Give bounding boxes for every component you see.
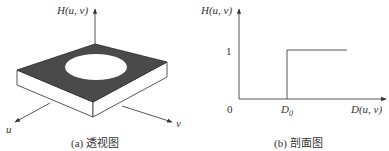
cutoff-label-sub: 0 — [289, 109, 293, 118]
origin-label: 0 — [227, 104, 233, 115]
passband-hole — [65, 54, 127, 80]
caption-b: (b) 剖面图 — [274, 138, 323, 149]
cutoff-label-main: D — [281, 103, 289, 115]
x-axis-label: D(u, v) — [351, 104, 382, 115]
perspective-diagram — [15, 9, 172, 122]
profile-chart — [239, 9, 386, 99]
level-one-label: 1 — [226, 46, 232, 57]
h-axis-label: H(u, v) — [57, 5, 88, 16]
cutoff-label: D0 — [281, 104, 293, 118]
h-axis-label-text: H(u, v) — [57, 4, 88, 16]
v-axis — [122, 106, 172, 122]
figure-canvas — [0, 0, 389, 151]
u-axis — [15, 103, 50, 122]
u-axis-label: u — [6, 124, 12, 135]
step-function-line — [287, 50, 347, 99]
y-axis-label: H(u, v) — [201, 5, 232, 16]
caption-a: (a) 透视图 — [71, 138, 119, 149]
v-axis-label: v — [176, 118, 181, 129]
